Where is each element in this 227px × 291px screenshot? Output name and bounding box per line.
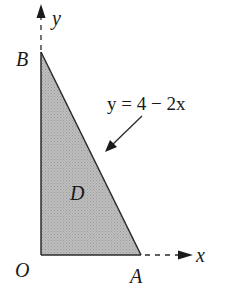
point-a-label: A [128,265,143,287]
y-axis-label: y [50,7,61,30]
curve-equation-label: y = 4 − 2x [107,93,186,114]
x-axis-label: x [195,244,205,266]
region-d-label: D [69,182,85,204]
pointer-arrow-shaft [111,116,142,146]
x-axis-arrow-icon [178,251,193,260]
region-diagram: y x B O A D y = 4 − 2x [0,0,227,291]
point-b-label: B [16,48,28,70]
y-axis-arrow-icon [37,4,46,18]
point-o-label: O [15,259,29,281]
